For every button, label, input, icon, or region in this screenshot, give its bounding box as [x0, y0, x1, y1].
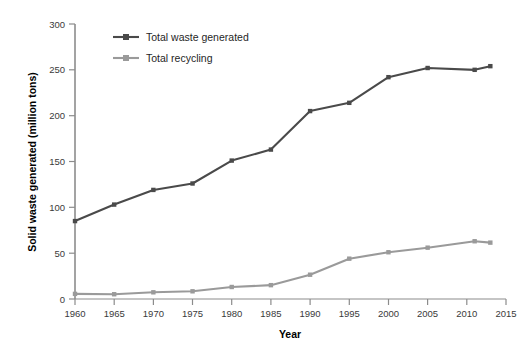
y-tick-label: 250	[49, 64, 65, 75]
data-point-marker-recycling	[269, 283, 273, 287]
data-point-marker-recycling	[386, 250, 390, 254]
data-point-marker-waste	[190, 181, 194, 185]
recycling-data-markers	[73, 239, 493, 296]
x-axis-tick-labels: 1960 1965 1970 1975 1980 1985 1990 1995 …	[64, 308, 516, 319]
legend-swatch-marker-recycling	[123, 55, 129, 61]
x-tick-label: 1990	[300, 308, 321, 319]
x-tick-label: 1975	[182, 308, 203, 319]
legend-label-waste: Total waste generated	[146, 31, 249, 43]
data-point-marker-waste	[347, 101, 351, 105]
x-tick-label: 2005	[417, 308, 438, 319]
x-tick-label: 1980	[221, 308, 242, 319]
y-axis-ticks	[69, 24, 75, 299]
data-point-marker-waste	[425, 66, 429, 70]
x-tick-label: 2015	[495, 308, 516, 319]
data-point-marker-recycling	[151, 290, 155, 294]
data-point-marker-recycling	[190, 289, 194, 293]
legend-swatch-marker-waste	[123, 34, 129, 40]
data-point-marker-recycling	[73, 292, 77, 296]
x-tick-label: 1995	[339, 308, 360, 319]
y-tick-label: 200	[49, 110, 65, 121]
data-point-marker-recycling	[112, 292, 116, 296]
chart-legend: Total waste generated Total recycling	[113, 31, 249, 64]
data-point-marker-recycling	[488, 240, 492, 244]
data-point-marker-waste	[472, 68, 476, 72]
legend-label-recycling: Total recycling	[146, 52, 213, 64]
waste-data-markers	[73, 64, 493, 223]
data-point-marker-waste	[386, 75, 390, 79]
data-point-marker-waste	[151, 188, 155, 192]
series-total-recycling	[73, 239, 493, 296]
data-point-marker-recycling	[472, 239, 476, 243]
x-tick-label: 1960	[64, 308, 85, 319]
x-tick-label: 2010	[456, 308, 477, 319]
y-axis-tick-labels: 0 50 100 150 200 250 300	[49, 19, 65, 305]
data-point-marker-waste	[73, 219, 77, 223]
x-tick-label: 1985	[260, 308, 281, 319]
y-tick-label: 50	[54, 248, 65, 259]
waste-recycling-line-chart: 0 50 100 150 200 250 300 1960 1965	[0, 0, 523, 349]
x-axis-ticks	[75, 299, 506, 305]
x-tick-label: 1965	[104, 308, 125, 319]
legend-item-total-waste-generated[interactable]: Total waste generated	[113, 31, 249, 43]
x-axis-title: Year	[279, 328, 301, 340]
waste-line-path	[75, 66, 490, 221]
y-axis-title: Solid waste generated (million tons)	[26, 72, 38, 252]
x-tick-label: 1970	[143, 308, 164, 319]
data-point-marker-waste	[308, 109, 312, 113]
data-point-marker-waste	[230, 158, 234, 162]
data-point-marker-waste	[488, 64, 492, 68]
y-tick-label: 300	[49, 19, 65, 30]
series-total-waste-generated	[73, 64, 493, 223]
y-tick-label: 150	[49, 156, 65, 167]
data-point-marker-recycling	[230, 285, 234, 289]
data-point-marker-waste	[269, 147, 273, 151]
data-point-marker-recycling	[425, 245, 429, 249]
x-tick-label: 2000	[378, 308, 399, 319]
y-tick-label: 0	[60, 294, 65, 305]
data-point-marker-recycling	[347, 256, 351, 260]
data-point-marker-waste	[112, 202, 116, 206]
data-point-marker-recycling	[308, 273, 312, 277]
y-tick-label: 100	[49, 202, 65, 213]
chart-canvas: 0 50 100 150 200 250 300 1960 1965	[0, 0, 523, 349]
legend-item-total-recycling[interactable]: Total recycling	[113, 52, 213, 64]
